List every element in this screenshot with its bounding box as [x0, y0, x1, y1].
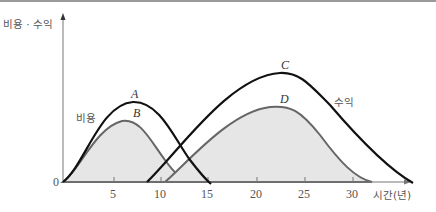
y-axis-arrow [61, 13, 66, 20]
label-b: B [133, 106, 140, 121]
x-axis-label: 시간(년) [373, 187, 411, 202]
y-axis-label: 비용 · 수익 [3, 16, 53, 31]
x-tick-label-5: 5 [110, 187, 116, 202]
revenue-label: 수익 [334, 94, 354, 109]
x-tick-label-20: 20 [250, 187, 262, 202]
x-tick-label-25: 25 [298, 187, 310, 202]
x-tick-label-15: 15 [201, 187, 213, 202]
chart-plot [0, 0, 436, 212]
label-d: D [280, 92, 289, 107]
cost-label: 비용 [76, 110, 96, 125]
x-tick-label-30: 30 [346, 187, 358, 202]
x-tick-label-10: 10 [154, 187, 166, 202]
label-c: C [281, 58, 289, 73]
origin-label: 0 [53, 175, 59, 190]
label-a: A [131, 87, 138, 102]
